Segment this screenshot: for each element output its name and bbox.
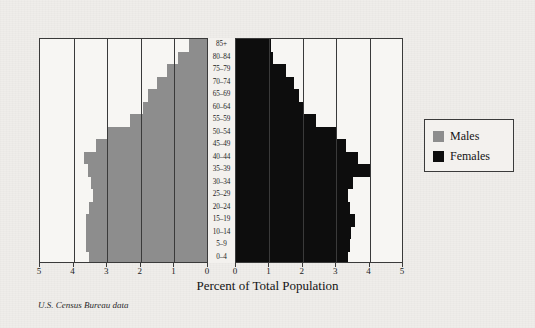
bar-females-55-59 <box>236 114 316 127</box>
bar-males-70-74 <box>157 77 207 90</box>
legend: Males Females <box>424 119 514 172</box>
bar-females-10-14 <box>236 227 351 240</box>
males-swatch <box>433 131 444 142</box>
gridline-males-3 <box>107 39 108 262</box>
gridline-females-1 <box>269 39 270 262</box>
bar-males-15-19 <box>86 214 207 227</box>
age-label-80-84: 80–84 <box>208 51 235 64</box>
bar-females-0-4 <box>236 252 348 264</box>
bar-females-70-74 <box>236 77 294 90</box>
age-group-axis: 85+80–8475–7970–7465–6960–6455–5950–5445… <box>208 38 235 263</box>
gridline-females-2 <box>303 39 304 262</box>
age-label-85+: 85+ <box>208 38 235 51</box>
age-label-70-74: 70–74 <box>208 76 235 89</box>
tick-label-right-3: 3 <box>327 266 343 276</box>
tick-label-left-1: 1 <box>165 266 181 276</box>
bar-males-85+ <box>189 39 207 52</box>
x-axis-title-text: Percent of Total Population <box>196 278 338 294</box>
age-label-10-14: 10–14 <box>208 226 235 239</box>
age-label-40-44: 40–44 <box>208 151 235 164</box>
age-label-15-19: 15–19 <box>208 213 235 226</box>
source-note: U.S. Census Bureau data <box>38 300 128 310</box>
bar-males-35-39 <box>88 164 207 177</box>
legend-item-females: Females <box>433 146 513 166</box>
females-plot-panel <box>235 38 403 263</box>
age-label-65-69: 65–69 <box>208 88 235 101</box>
tick-label-left-5: 5 <box>31 266 47 276</box>
age-label-35-39: 35–39 <box>208 163 235 176</box>
tick-label-right-2: 2 <box>294 266 310 276</box>
bar-males-50-54 <box>108 127 207 140</box>
bar-females-50-54 <box>236 127 336 140</box>
age-label-45-49: 45–49 <box>208 138 235 151</box>
bar-males-80-84 <box>178 52 207 65</box>
gridline-males-4 <box>74 39 75 262</box>
x-axis-title: Percent of Total Population <box>0 278 535 294</box>
tick-label-left-4: 4 <box>65 266 81 276</box>
age-label-25-29: 25–29 <box>208 188 235 201</box>
bar-males-30-34 <box>91 177 207 190</box>
bar-males-25-29 <box>93 189 207 202</box>
bar-females-40-44 <box>236 152 358 165</box>
bar-females-25-29 <box>236 189 348 202</box>
bar-females-20-24 <box>236 202 350 215</box>
bar-females-80-84 <box>236 52 273 65</box>
age-label-55-59: 55–59 <box>208 113 235 126</box>
legend-item-males: Males <box>433 126 513 146</box>
females-swatch <box>433 151 444 162</box>
gridline-females-4 <box>370 39 371 262</box>
legend-label-males: Males <box>450 130 479 142</box>
tick-label-left-0: 0 <box>199 266 215 276</box>
bar-males-40-44 <box>84 152 207 165</box>
age-label-30-34: 30–34 <box>208 176 235 189</box>
tick-label-right-4: 4 <box>361 266 377 276</box>
age-label-5-9: 5–9 <box>208 238 235 251</box>
tick-label-right-1: 1 <box>260 266 276 276</box>
gridline-males-2 <box>141 39 142 262</box>
age-label-20-24: 20–24 <box>208 201 235 214</box>
tick-label-left-2: 2 <box>132 266 148 276</box>
males-bar-group <box>40 39 207 262</box>
legend-label-females: Females <box>450 150 490 162</box>
tick-label-left-3: 3 <box>98 266 114 276</box>
population-pyramid-figure: 85+80–8475–7970–7465–6960–6455–5950–5445… <box>0 0 535 328</box>
age-label-0-4: 0–4 <box>208 251 235 264</box>
gridline-males-1 <box>174 39 175 262</box>
bar-females-65-69 <box>236 89 299 102</box>
age-label-50-54: 50–54 <box>208 126 235 139</box>
tick-label-right-0: 0 <box>227 266 243 276</box>
females-bar-group <box>236 39 402 262</box>
bar-females-75-79 <box>236 64 286 77</box>
gridline-females-3 <box>336 39 337 262</box>
males-plot-panel <box>39 38 208 263</box>
bar-males-10-14 <box>86 227 207 240</box>
bar-males-75-79 <box>167 64 207 77</box>
bar-males-5-9 <box>86 239 207 252</box>
bar-males-45-49 <box>96 139 207 152</box>
age-label-75-79: 75–79 <box>208 63 235 76</box>
bar-females-45-49 <box>236 139 346 152</box>
bar-females-85+ <box>236 39 271 52</box>
age-label-60-64: 60–64 <box>208 101 235 114</box>
bar-males-65-69 <box>148 89 207 102</box>
tick-label-right-5: 5 <box>394 266 410 276</box>
bar-females-5-9 <box>236 239 350 252</box>
